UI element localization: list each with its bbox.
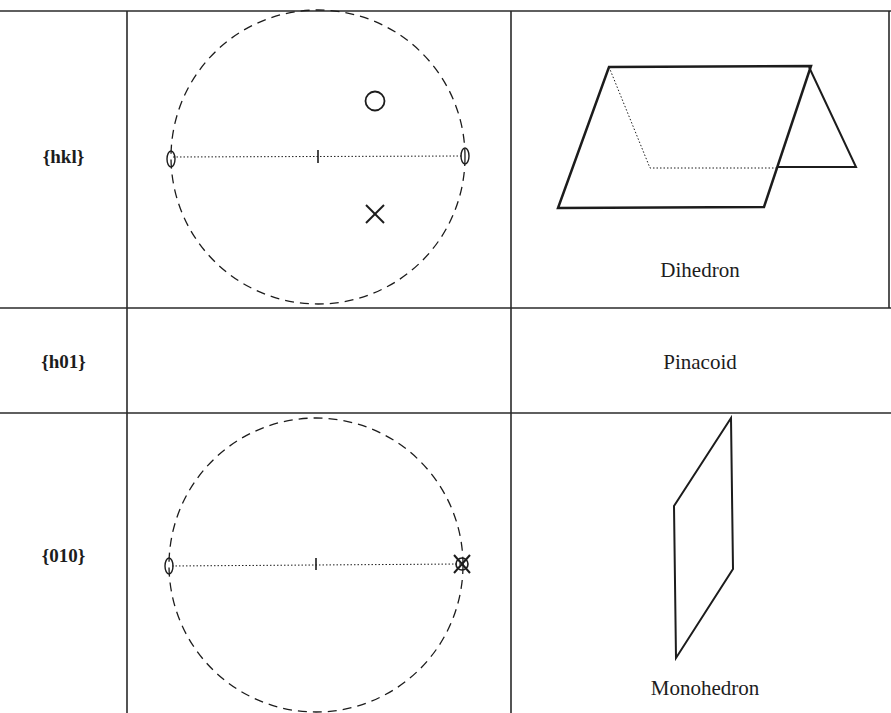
monohedron-drawing bbox=[674, 418, 733, 658]
form-label-h01: {h01} bbox=[0, 351, 127, 373]
dihedron-drawing bbox=[558, 66, 856, 208]
form-name-pinacoid: Pinacoid bbox=[511, 350, 889, 375]
form-name-dihedron: Dihedron bbox=[511, 258, 889, 283]
stereogram-010 bbox=[165, 418, 470, 712]
pole-cross-icon bbox=[366, 205, 384, 223]
form-name-monohedron: Monohedron bbox=[511, 676, 891, 701]
pole-circle-icon bbox=[366, 92, 385, 111]
form-label-hkl: {hkl} bbox=[0, 146, 127, 168]
form-label-010: {010} bbox=[0, 545, 127, 567]
stereogram-hkl bbox=[167, 10, 469, 304]
form-table: {hkl} Dihedron {h01} Pinacoid {010} Mono… bbox=[0, 0, 891, 713]
